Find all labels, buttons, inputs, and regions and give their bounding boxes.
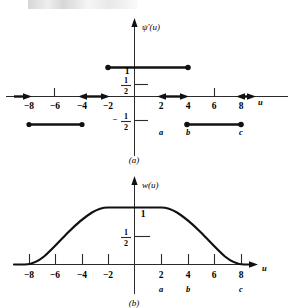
panel-a-segment-ramp-zero-right [157,93,189,100]
panel-b-xtick-label-4: 4 [186,270,191,280]
panel-b-x-ticks [30,254,242,264]
panel-a-segment-ray-right-zero [236,93,256,100]
panel-b-x-axis-label: u [262,263,267,273]
panel-a-y-axis [131,18,137,156]
panel-a-xtick-label-2: 2 [159,101,164,111]
svg-text:1: 1 [124,76,128,85]
panel-a-xtick-label-8: 8 [239,101,244,111]
panel-a-point-label-c: c [239,127,243,137]
panel-a-xtick-label-4: 4 [186,101,191,111]
panel-b-x-axis [14,261,258,268]
panel-b-curve-w [14,208,252,265]
panel-b-ytick-label-half: 1 2 [121,228,131,248]
panel-b-y-axis-label: w(u) [142,180,159,190]
panel-a-plot: ψ'(u) u −8 −6 −4 −2 2 4 6 8 1 1 2 − 1 2 … [0,8,294,168]
panel-b-xtick-label-m4: −4 [77,270,87,280]
panel-b-plot: w(u) u −8 −6 −4 −2 2 4 6 8 1 1 2 a b c (… [0,166,294,308]
panel-a-xtick-label-m4: −4 [77,101,87,111]
panel-a-y-axis-label: ψ'(u) [142,22,160,32]
panel-a-point-label-a: a [159,127,164,137]
panel-a-xtick-label-m8: −8 [24,101,34,111]
panel-a-ytick-label-half: 1 2 [121,76,131,96]
panel-a-segment-plateau-negative-half-right [184,122,244,128]
panel-b-xtick-label-m6: −6 [50,270,60,280]
svg-text:2: 2 [124,87,128,96]
panel-a-ytick-label-1: 1 [125,66,130,76]
panel-b-xtick-label-m2: −2 [103,270,113,280]
panel-a-xtick-label-6: 6 [212,101,217,111]
panel-a-caption: (a) [129,155,140,165]
panel-a-segment-plateau-negative-half-left [26,122,84,127]
panel-b-xtick-label-2: 2 [159,270,164,280]
panel-b-point-label-b: b [186,284,190,294]
panel-b-point-label-a: a [159,284,164,294]
panel-b-xtick-label-8: 8 [239,270,244,280]
panel-a-ytick-label-negative-half: − 1 2 [113,112,131,132]
panel-b-ytick-label-1: 1 [141,209,146,219]
panel-a-y-ticks [135,85,149,121]
panel-a-segment-ramp-zero-left [78,93,110,100]
panel-b-y-axis [131,176,137,294]
panel-b-xtick-label-6: 6 [212,270,217,280]
panel-a-point-label-b: b [186,127,190,137]
svg-text:2: 2 [124,123,128,132]
panel-a-segment-ray-left-zero [14,93,32,100]
panel-a-segment-plateau-one [105,65,191,71]
svg-text:2: 2 [124,239,128,248]
panel-a-xtick-label-m6: −6 [50,101,60,111]
textbook-figure: ψ'(u) u −8 −6 −4 −2 2 4 6 8 1 1 2 − 1 2 … [0,0,294,308]
panel-b-caption: (b) [129,298,140,308]
panel-b-point-label-c: c [239,284,243,294]
svg-text:1: 1 [124,112,128,121]
svg-text:−: − [113,115,118,124]
panel-a-x-axis-label: u [258,97,263,107]
panel-b-xtick-label-m8: −8 [24,270,34,280]
svg-text:1: 1 [124,228,128,237]
panel-a-xtick-label-m2: −2 [103,101,113,111]
